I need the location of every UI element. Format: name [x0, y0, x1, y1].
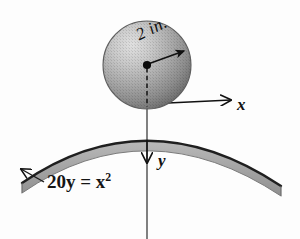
y-axis-label: y — [158, 152, 166, 169]
figure-canvas: 2 in. x y 20y = x2 — [0, 0, 300, 239]
x-axis-label: x — [237, 96, 246, 113]
curve-equation-exponent: 2 — [105, 171, 111, 184]
curve-equation-label: 20y = x2 — [47, 172, 111, 191]
curve-equation-text: 20y = x — [47, 171, 105, 192]
sphere-center-dot — [143, 61, 151, 69]
